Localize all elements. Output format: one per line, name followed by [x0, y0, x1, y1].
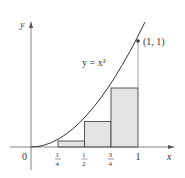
tick-numerator: 1	[56, 151, 60, 159]
point-1-1	[136, 39, 140, 43]
point-label: (1, 1)	[143, 36, 165, 48]
plot-svg: y x 0 y = x² (1, 1) 1 4 1 2 3 4 1	[0, 0, 185, 178]
tick-one: 1	[136, 151, 141, 162]
x-axis-label: x	[166, 151, 172, 162]
tick-denominator: 2	[82, 160, 86, 168]
y-axis-arrow-icon	[29, 21, 33, 28]
tick-half: 1 2	[82, 151, 88, 168]
tick-three-quarters: 3 4	[108, 151, 114, 168]
tick-denominator: 4	[56, 160, 60, 168]
rectangle-3	[85, 122, 112, 148]
riemann-sum-figure: y x 0 y = x² (1, 1) 1 4 1 2 3 4 1	[0, 0, 185, 178]
tick-denominator: 4	[109, 160, 113, 168]
curve-label: y = x²	[82, 57, 106, 68]
rectangle-2	[58, 141, 85, 147]
x-axis-arrow-icon	[168, 145, 175, 149]
rectangle-4	[111, 88, 138, 147]
tick-numerator: 3	[109, 151, 113, 159]
y-axis-label: y	[19, 19, 25, 30]
tick-quarter: 1 4	[55, 151, 61, 168]
riemann-rectangles	[58, 88, 138, 147]
origin-label: 0	[22, 151, 27, 162]
tick-numerator: 1	[82, 151, 86, 159]
